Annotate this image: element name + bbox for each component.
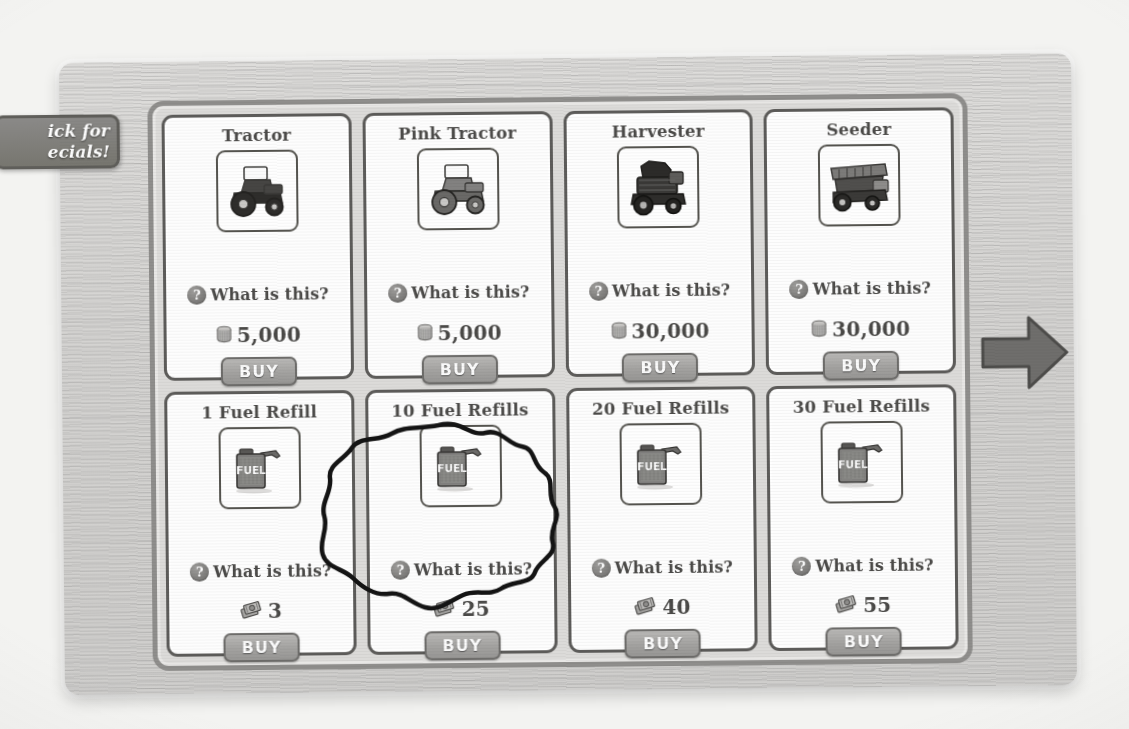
item-price: 30,000: [568, 318, 752, 344]
buy-button-label: BUY: [643, 634, 683, 653]
screenshot-stage: ick for ecials! Tractor ? What is this?: [0, 0, 1129, 729]
buy-button-label: BUY: [440, 359, 480, 378]
shop-item-card[interactable]: 1 Fuel Refill FUEL ? What is this? 3 BUY: [164, 390, 356, 657]
item-thumbnail: FUEL: [821, 420, 904, 503]
what-is-this-label: What is this?: [414, 559, 533, 579]
what-is-this-label: What is this?: [213, 561, 332, 581]
coins-icon: [216, 325, 233, 344]
what-is-this-label: What is this?: [815, 555, 934, 575]
item-title: Pink Tractor: [398, 123, 516, 143]
shop-item-card[interactable]: Pink Tractor ? What is this? 5,000 BUY: [362, 111, 554, 378]
what-is-this-link[interactable]: ? What is this?: [768, 278, 952, 299]
item-title: 10 Fuel Refills: [391, 400, 528, 420]
item-thumbnail: FUEL: [620, 422, 703, 505]
arrow-right-icon: [976, 306, 1072, 399]
buy-button[interactable]: BUY: [826, 627, 902, 657]
tractor-icon: [224, 163, 291, 220]
item-price-value: 5,000: [438, 320, 502, 345]
buy-button[interactable]: BUY: [622, 352, 698, 382]
item-thumbnail: FUEL: [218, 426, 301, 509]
item-price: 25: [370, 596, 554, 622]
item-thumbnail: [818, 144, 901, 227]
shop-item-card[interactable]: 20 Fuel Refills FUEL ? What is this? 40 …: [566, 386, 758, 653]
next-page-arrow-button[interactable]: [976, 306, 1072, 399]
question-mark-icon: ?: [792, 556, 811, 575]
item-price: 30,000: [769, 316, 953, 342]
fuel-can-icon: FUEL: [629, 433, 694, 494]
item-thumbnail: [617, 146, 700, 229]
item-title: 30 Fuel Refills: [793, 396, 930, 416]
what-is-this-link[interactable]: ? What is this?: [166, 284, 350, 305]
what-is-this-label: What is this?: [612, 280, 731, 300]
farm-game-window: ick for ecials! Tractor ? What is this?: [59, 53, 1077, 695]
what-is-this-link[interactable]: ? What is this?: [771, 555, 955, 576]
buy-button-label: BUY: [242, 638, 282, 657]
what-is-this-link[interactable]: ? What is this?: [370, 559, 554, 580]
question-mark-icon: ?: [391, 560, 410, 579]
shop-item-card[interactable]: 10 Fuel Refills FUEL ? What is this? 25 …: [365, 388, 557, 655]
item-thumbnail: [216, 150, 299, 233]
harvester-icon: [625, 158, 692, 217]
question-mark-icon: ?: [790, 280, 809, 299]
question-mark-icon: ?: [190, 562, 209, 581]
what-is-this-label: What is this?: [411, 282, 530, 302]
fuel-can-icon: FUEL: [428, 435, 493, 496]
item-title: 1 Fuel Refill: [201, 402, 317, 422]
specials-tab-line-2: ecials!: [48, 141, 110, 163]
question-mark-icon: ?: [591, 558, 610, 577]
item-title: Seeder: [826, 120, 891, 140]
what-is-this-label: What is this?: [210, 284, 329, 304]
shop-item-card[interactable]: Harvester ? What is this? 30,000 BUY: [563, 109, 755, 376]
farm-cash-icon: [634, 597, 658, 617]
item-thumbnail: [416, 148, 499, 231]
click-for-specials-tab[interactable]: ick for ecials!: [0, 114, 120, 169]
question-mark-icon: ?: [187, 285, 206, 304]
what-is-this-link[interactable]: ? What is this?: [169, 561, 353, 582]
question-mark-icon: ?: [589, 282, 608, 301]
item-price-value: 3: [268, 599, 282, 623]
item-title: Tractor: [222, 126, 291, 146]
buy-button[interactable]: BUY: [421, 354, 497, 384]
buy-button[interactable]: BUY: [625, 629, 701, 659]
item-price-value: 30,000: [832, 316, 911, 341]
specials-tab-line-1: ick for: [47, 120, 109, 142]
buy-button-label: BUY: [841, 355, 881, 374]
shop-item-card[interactable]: 30 Fuel Refills FUEL ? What is this? 55 …: [766, 384, 958, 651]
pink-tractor-icon: [425, 161, 492, 218]
buy-button[interactable]: BUY: [823, 350, 899, 380]
item-price: 40: [571, 594, 755, 620]
buy-button-label: BUY: [442, 636, 482, 655]
farm-cash-icon: [835, 595, 859, 615]
farm-cash-icon: [240, 601, 264, 621]
what-is-this-link[interactable]: ? What is this?: [570, 557, 754, 578]
buy-button-label: BUY: [844, 632, 884, 651]
what-is-this-link[interactable]: ? What is this?: [568, 280, 752, 301]
buy-button[interactable]: BUY: [424, 631, 500, 661]
item-thumbnail: FUEL: [419, 424, 502, 507]
shop-item-card[interactable]: Seeder ? What is this? 30,000 BUY: [764, 107, 956, 374]
buy-button-label: BUY: [640, 357, 680, 376]
fuel-can-icon: FUEL: [830, 431, 895, 492]
shop-item-card[interactable]: Tractor ? What is this? 5,000 BUY: [161, 113, 353, 380]
coins-icon: [811, 320, 828, 339]
item-price: 55: [771, 592, 955, 618]
what-is-this-label: What is this?: [614, 557, 733, 577]
item-price: 5,000: [166, 322, 350, 348]
shop-item-grid: Tractor ? What is this? 5,000 BUY Pink T…: [161, 107, 958, 657]
buy-button[interactable]: BUY: [223, 633, 299, 663]
coins-icon: [417, 323, 434, 342]
item-title: Harvester: [611, 122, 704, 142]
farm-cash-icon: [434, 599, 458, 619]
buy-button-label: BUY: [239, 361, 279, 380]
item-price-value: 30,000: [631, 318, 710, 343]
seeder-icon: [825, 158, 894, 213]
item-price-value: 40: [662, 595, 691, 619]
what-is-this-label: What is this?: [813, 279, 932, 299]
buy-button[interactable]: BUY: [221, 356, 297, 386]
coins-icon: [610, 321, 627, 340]
question-mark-icon: ?: [388, 284, 407, 303]
what-is-this-link[interactable]: ? What is this?: [367, 282, 551, 303]
item-title: 20 Fuel Refills: [592, 398, 729, 418]
item-price-value: 55: [863, 593, 892, 617]
item-price: 5,000: [367, 320, 551, 346]
